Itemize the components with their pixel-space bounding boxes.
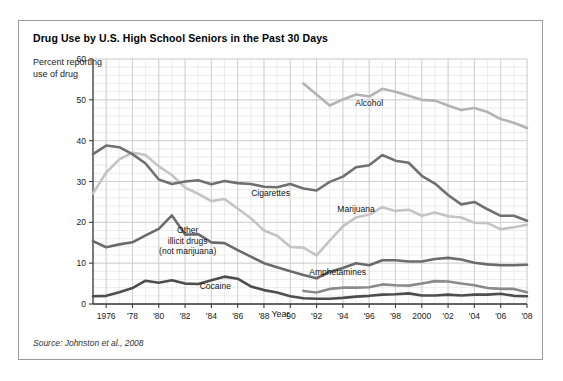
y-axis-ticks: 0102030405060 — [77, 54, 93, 309]
series-label-alcohol: Alcohol — [355, 98, 383, 108]
y-tick-label: 10 — [77, 258, 87, 268]
series-label-other-illicit-drugs-not-marijuana: Other — [177, 225, 198, 235]
series-line — [303, 281, 527, 292]
series-amphetamines — [303, 281, 527, 292]
y-tick-label: 60 — [77, 54, 87, 64]
series-alcohol — [303, 84, 527, 129]
y-tick-label: 50 — [77, 95, 87, 105]
source-note: Source: Johnston et al., 2008 — [33, 338, 144, 348]
figure-panel: Drug Use by U.S. High School Seniors in … — [18, 20, 543, 360]
series-label-other-illicit-drugs-not-marijuana: illicit drugs — [168, 236, 208, 246]
series-label-amphetamines: Amphetamines — [309, 267, 366, 277]
x-axis-label: Year — [19, 309, 542, 319]
y-tick-label: 40 — [77, 136, 87, 146]
series-label-cocaine: Cocaine — [200, 281, 231, 291]
y-tick-label: 30 — [77, 177, 87, 187]
y-tick-label: 20 — [77, 217, 87, 227]
series-label-marijuana: Marijuana — [337, 204, 375, 214]
y-tick-label: 0 — [81, 299, 86, 309]
series-label-cigarettes: Cigarettes — [251, 188, 290, 198]
series-line — [303, 84, 527, 129]
series-labels: AlcoholCigarettesMarijuanaOtherillicit d… — [159, 98, 383, 291]
series-label-other-illicit-drugs-not-marijuana: (not marijuana) — [159, 246, 216, 256]
